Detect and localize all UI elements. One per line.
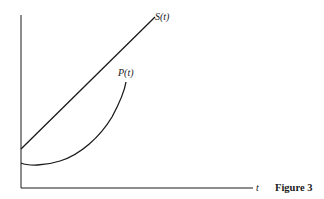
figure-canvas: S(t) P(t) t Figure 3 — [0, 0, 324, 199]
curve-p-of-t — [21, 82, 126, 165]
label-s-of-t: S(t) — [155, 11, 170, 23]
curve-s-of-t — [21, 17, 155, 149]
figure-caption: Figure 3 — [275, 182, 312, 193]
x-axis-label: t — [256, 182, 259, 193]
label-p-of-t: P(t) — [117, 67, 134, 79]
